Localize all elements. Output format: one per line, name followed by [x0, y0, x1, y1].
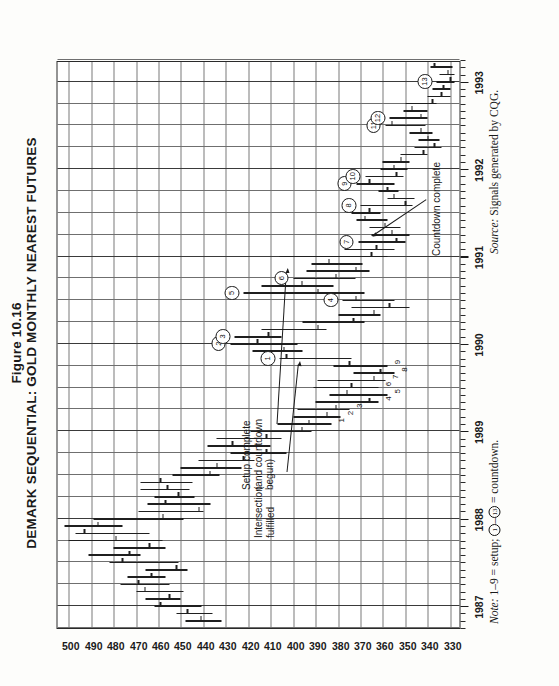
- month-tick: [460, 206, 465, 207]
- month-tick: [460, 490, 465, 491]
- month-tick: [460, 118, 465, 119]
- ohlc-bar: [127, 576, 165, 578]
- ohlc-close-tick: [186, 609, 188, 614]
- ohlc-close-tick: [301, 281, 303, 286]
- ohlc-bar: [140, 482, 192, 484]
- ohlc-close-tick: [404, 201, 406, 206]
- month-tick: [460, 213, 465, 214]
- annotation-intersection-fulfilled: Intersection fulfilled: [252, 486, 275, 538]
- ohlc-close-tick: [177, 492, 179, 497]
- month-tick: [460, 198, 465, 199]
- month-tick: [460, 468, 465, 469]
- month-tick: [460, 242, 465, 243]
- month-tick: [460, 300, 465, 301]
- quarter-gridline: [57, 278, 459, 279]
- month-tick: [460, 147, 465, 148]
- price-axis-label: 500: [53, 640, 79, 652]
- month-tick: [460, 89, 465, 90]
- ohlc-close-tick: [97, 522, 99, 527]
- ohlc-bar: [436, 81, 454, 83]
- ohlc-bar: [293, 416, 340, 418]
- ohlc-close-tick: [393, 194, 395, 199]
- note-countdown-thirteen: 13: [488, 506, 500, 518]
- month-tick: [460, 482, 465, 483]
- year-axis-label: 1989: [472, 418, 484, 446]
- figure-page: Figure 10.16 DEMARK SEQUENTIAL: GOLD MON…: [0, 0, 559, 686]
- ohlc-close-tick: [175, 565, 177, 570]
- month-tick: [460, 133, 465, 134]
- ohlc-close-tick: [386, 187, 388, 192]
- year-axis-label: 1992: [472, 156, 484, 184]
- month-tick: [460, 126, 465, 127]
- quarter-gridline: [57, 627, 459, 628]
- month-tick: [460, 402, 465, 403]
- month-tick: [460, 67, 465, 68]
- ohlc-bar: [145, 598, 181, 600]
- ohlc-bar: [243, 292, 364, 294]
- year-tick: [460, 606, 468, 607]
- setup-count-label: 2: [345, 411, 354, 415]
- ohlc-close-tick: [335, 274, 337, 279]
- ohlc-bar: [356, 219, 387, 221]
- note-seg-c: –: [487, 518, 499, 524]
- ohlc-close-tick: [370, 252, 372, 257]
- month-tick: [460, 293, 465, 294]
- month-tick: [460, 373, 465, 374]
- ohlc-bar: [353, 372, 393, 374]
- ohlc-bar: [306, 270, 369, 272]
- month-tick: [460, 599, 465, 600]
- month-tick: [460, 380, 465, 381]
- month-tick: [460, 563, 465, 564]
- quarter-gridline: [57, 583, 459, 584]
- countdown-marker: 3: [215, 329, 230, 344]
- ohlc-close-tick: [328, 259, 330, 264]
- setup-count-label: 9: [392, 360, 401, 364]
- year-axis-label: 1993: [472, 69, 484, 97]
- month-tick: [460, 235, 465, 236]
- note-seg-a: 1–9 = setup;: [487, 536, 499, 599]
- ohlc-bar: [138, 511, 203, 513]
- month-tick: [460, 220, 465, 221]
- year-axis-label: 1991: [472, 244, 484, 272]
- ohlc-bar: [180, 467, 241, 469]
- month-tick: [460, 111, 465, 112]
- month-tick: [460, 526, 465, 527]
- ohlc-close-tick: [283, 347, 285, 352]
- price-axis-label: 430: [210, 640, 236, 652]
- ohlc-close-tick: [168, 594, 170, 599]
- ohlc-close-tick: [200, 616, 202, 621]
- ohlc-close-tick: [442, 85, 444, 90]
- ohlc-close-tick: [346, 390, 348, 395]
- year-tick: [460, 256, 468, 257]
- ohlc-bar: [109, 562, 179, 564]
- ohlc-close-tick: [159, 602, 161, 607]
- month-tick: [460, 584, 465, 585]
- ohlc-close-tick: [352, 318, 354, 323]
- ohlc-close-tick: [427, 136, 429, 141]
- ohlc-bar: [414, 147, 441, 149]
- ohlc-close-tick: [447, 70, 449, 75]
- quarter-gridline: [57, 59, 459, 60]
- quarter-gridline: [57, 146, 459, 147]
- month-tick: [460, 337, 465, 338]
- month-tick: [460, 96, 465, 97]
- year-tick: [460, 344, 468, 345]
- month-tick: [460, 555, 465, 556]
- month-tick: [460, 461, 465, 462]
- ohlc-close-tick: [144, 587, 146, 592]
- ohlc-close-tick: [373, 376, 375, 381]
- rotated-figure-canvas: Figure 10.16 DEMARK SEQUENTIAL: GOLD MON…: [0, 0, 559, 686]
- month-tick: [460, 446, 465, 447]
- ohlc-close-tick: [83, 529, 85, 534]
- ohlc-close-tick: [162, 514, 164, 519]
- ohlc-close-tick: [391, 121, 393, 126]
- price-axis-label: 390: [300, 640, 326, 652]
- ohlc-close-tick: [159, 478, 161, 483]
- ohlc-bar: [145, 569, 188, 571]
- ohlc-bar: [136, 591, 183, 593]
- setup-count-label: 7: [390, 374, 399, 378]
- ohlc-close-tick: [308, 420, 310, 425]
- ohlc-close-tick: [420, 114, 422, 119]
- month-tick: [460, 475, 465, 476]
- ohlc-bar: [432, 88, 450, 90]
